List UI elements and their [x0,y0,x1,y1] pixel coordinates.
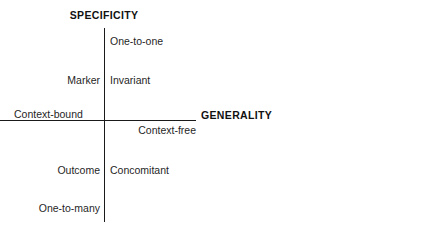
horizontal-axis-line [0,120,196,121]
quadrant-diagram: SPECIFICITY GENERALITY One-to-one Marker… [0,0,431,231]
label-one-to-one: One-to-one [110,35,163,47]
label-concomitant: Concomitant [110,164,169,176]
horizontal-axis-title: GENERALITY [201,109,272,121]
label-marker: Marker [67,74,100,86]
label-one-to-many: One-to-many [39,202,100,214]
label-context-free: Context-free [138,124,196,136]
vertical-axis-title: SPECIFICITY [70,9,139,21]
label-context-bound: Context-bound [14,108,83,120]
vertical-axis-line [104,28,105,222]
label-invariant: Invariant [110,74,150,86]
label-outcome: Outcome [57,164,100,176]
